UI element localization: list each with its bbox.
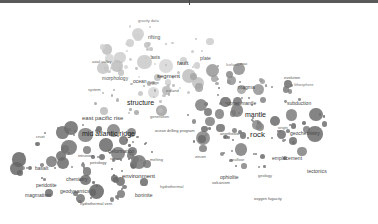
term-node-bubble[interactable] — [54, 167, 56, 169]
term-node-bubble[interactable] — [289, 124, 291, 126]
term-node-bubble[interactable] — [286, 109, 298, 121]
term-label[interactable]: zircon — [195, 155, 206, 159]
term-node-bubble[interactable] — [323, 115, 325, 117]
term-node-bubble[interactable] — [218, 87, 220, 89]
term-node-bubble[interactable] — [144, 143, 146, 145]
term-node-bubble[interactable] — [319, 113, 321, 115]
term-node-bubble[interactable] — [191, 50, 194, 53]
term-node-bubble[interactable] — [154, 89, 156, 91]
term-node-bubble[interactable] — [259, 122, 261, 124]
term-node-bubble[interactable] — [206, 38, 214, 46]
term-node-bubble[interactable] — [192, 119, 197, 124]
term-label[interactable]: axial valley — [92, 60, 112, 64]
term-node-bubble[interactable] — [291, 123, 296, 128]
term-node-bubble[interactable] — [208, 127, 211, 130]
term-node-bubble[interactable] — [179, 87, 181, 89]
term-label[interactable]: subduction — [287, 101, 311, 106]
term-node-bubble[interactable] — [149, 47, 153, 51]
term-node-bubble[interactable] — [135, 67, 138, 70]
term-node-bubble[interactable] — [168, 93, 171, 96]
term-label[interactable]: petrology — [90, 161, 106, 165]
term-label[interactable]: volcanism — [212, 181, 230, 185]
term-node-bubble[interactable] — [260, 154, 265, 159]
term-label[interactable]: geochemistry — [290, 131, 320, 136]
term-map-canvas[interactable]: gravity datariftingaxisfaultaxial valley… — [0, 3, 378, 224]
term-label[interactable]: hydrothermal — [160, 185, 183, 189]
term-label[interactable]: east pacific rise — [82, 115, 123, 121]
term-node-bubble[interactable] — [283, 86, 290, 93]
term-node-bubble[interactable] — [241, 163, 247, 169]
term-node-bubble[interactable] — [171, 42, 174, 45]
term-node-bubble[interactable] — [128, 144, 131, 147]
term-node-bubble[interactable] — [235, 165, 237, 167]
term-node-bubble[interactable] — [215, 82, 218, 85]
term-node-bubble[interactable] — [322, 121, 327, 126]
term-label[interactable]: ridge — [150, 81, 159, 85]
term-label[interactable]: magma — [238, 85, 255, 90]
term-node-bubble[interactable] — [149, 26, 151, 28]
term-node-bubble[interactable] — [159, 100, 162, 103]
term-node-bubble[interactable] — [193, 140, 195, 142]
term-node-bubble[interactable] — [35, 142, 40, 147]
term-label[interactable]: magmatism — [25, 193, 51, 198]
term-node-bubble[interactable] — [43, 178, 46, 181]
term-label[interactable]: geology — [258, 174, 272, 178]
term-node-bubble[interactable] — [57, 157, 69, 169]
term-node-bubble[interactable] — [111, 168, 113, 170]
term-label[interactable]: ocean — [133, 79, 147, 84]
term-node-bubble[interactable] — [260, 97, 266, 103]
term-node-bubble[interactable] — [136, 136, 139, 139]
term-node-bubble[interactable] — [248, 97, 250, 99]
term-node-bubble[interactable] — [231, 150, 233, 152]
term-node-bubble[interactable] — [143, 85, 145, 87]
term-node-bubble[interactable] — [165, 64, 167, 66]
term-node-bubble[interactable] — [158, 108, 163, 113]
term-node-bubble[interactable] — [126, 50, 128, 52]
term-label[interactable]: evolution — [284, 76, 300, 80]
term-node-bubble[interactable] — [115, 195, 119, 199]
term-node-bubble[interactable] — [217, 65, 219, 67]
term-node-bubble[interactable] — [61, 140, 76, 155]
term-node-bubble[interactable] — [271, 86, 273, 88]
term-node-bubble[interactable] — [217, 94, 219, 96]
term-node-bubble[interactable] — [271, 137, 273, 139]
term-node-bubble[interactable] — [71, 166, 73, 168]
term-node-bubble[interactable] — [146, 48, 149, 51]
term-node-bubble[interactable] — [129, 58, 132, 61]
term-node-bubble[interactable] — [201, 50, 203, 52]
term-label[interactable]: chemistry — [66, 177, 87, 182]
term-label[interactable]: lithosphere — [294, 83, 314, 87]
term-label[interactable]: origin — [278, 126, 288, 130]
term-label[interactable]: Iceland — [226, 63, 239, 67]
term-label[interactable]: mantle — [245, 111, 266, 118]
term-node-bubble[interactable] — [28, 166, 32, 170]
term-label[interactable]: upper mantle — [227, 101, 256, 106]
term-node-bubble[interactable] — [111, 94, 114, 97]
term-node-bubble[interactable] — [290, 84, 293, 87]
term-label[interactable]: basalt — [35, 166, 48, 171]
term-node-bubble[interactable] — [128, 112, 130, 114]
term-node-bubble[interactable] — [263, 165, 266, 168]
term-label[interactable]: generation — [150, 115, 169, 119]
term-label[interactable]: deformation — [108, 149, 134, 154]
term-label[interactable]: emplacement — [272, 156, 302, 161]
term-node-bubble[interactable] — [122, 185, 126, 189]
term-node-bubble[interactable] — [82, 124, 84, 126]
term-node-bubble[interactable] — [289, 137, 297, 145]
term-node-bubble[interactable] — [258, 166, 260, 168]
term-node-bubble[interactable] — [220, 152, 224, 156]
term-label[interactable]: iceland — [166, 89, 179, 93]
term-label[interactable]: ocean drilling program — [155, 129, 195, 133]
term-node-bubble[interactable] — [64, 121, 79, 136]
term-node-bubble[interactable] — [187, 114, 189, 116]
term-node-bubble[interactable] — [187, 91, 190, 94]
term-label[interactable]: region — [110, 157, 121, 161]
term-node-bubble[interactable] — [302, 121, 305, 124]
term-node-bubble[interactable] — [265, 84, 267, 86]
term-node-bubble[interactable] — [90, 197, 92, 199]
term-node-bubble[interactable] — [215, 109, 224, 118]
term-node-bubble[interactable] — [195, 83, 204, 92]
term-label[interactable]: mid atlantic ridge — [82, 130, 135, 137]
term-node-bubble[interactable] — [134, 34, 142, 42]
term-node-bubble[interactable] — [132, 155, 146, 169]
